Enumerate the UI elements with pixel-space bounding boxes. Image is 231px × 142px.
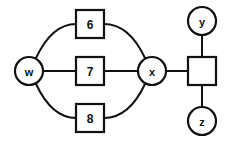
node-box7[interactable]: 7 <box>76 57 104 85</box>
node-box7-label: 7 <box>87 65 94 79</box>
node-x[interactable]: x <box>138 57 166 85</box>
node-x-label: x <box>149 66 156 78</box>
node-w[interactable]: w <box>15 57 43 85</box>
node-box6-label: 6 <box>87 18 94 32</box>
node-y-label: y <box>199 16 206 28</box>
node-y[interactable]: y <box>188 7 216 35</box>
edge-w-box8 <box>36 84 76 118</box>
graph-svg: w678xyz <box>0 0 231 142</box>
edges-layer <box>36 24 202 118</box>
edge-w-box6 <box>36 24 76 58</box>
diagram-canvas: w678xyz <box>0 0 231 142</box>
node-z[interactable]: z <box>188 107 216 135</box>
node-box6[interactable]: 6 <box>76 10 104 38</box>
node-z-label: z <box>199 116 205 128</box>
edge-box8-x <box>104 84 145 118</box>
node-box8-label: 8 <box>87 112 94 126</box>
node-blank-square[interactable] <box>188 57 216 85</box>
node-blank[interactable] <box>188 57 216 85</box>
edge-box6-x <box>104 24 145 58</box>
node-box8[interactable]: 8 <box>76 104 104 132</box>
node-w-label: w <box>24 66 34 78</box>
